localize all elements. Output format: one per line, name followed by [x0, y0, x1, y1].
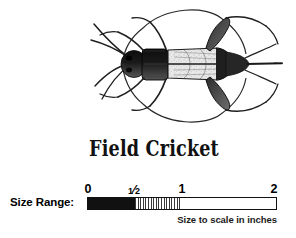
- size-range-section: Size Range: 0 1⁄2 1 2 Size to scale in i…: [0, 183, 296, 217]
- field-cricket-illustration: [88, 4, 284, 130]
- scale-tick-half: 1⁄2: [128, 183, 140, 198]
- field-guide-card: Field Cricket Size Range: 0 1⁄2 1 2 Size…: [0, 0, 296, 238]
- scale-caption: Size to scale in inches: [0, 214, 277, 225]
- forewings: [168, 48, 232, 80]
- scale-tick-labels: 0 1⁄2 1 2: [0, 183, 296, 197]
- fraction-denominator: 2: [135, 186, 140, 196]
- scale-tick-1: 1: [179, 182, 186, 196]
- cricket-body-group: [91, 10, 282, 122]
- size-range-label: Size Range:: [10, 196, 74, 208]
- abdomen: [226, 52, 249, 76]
- ovipositor: [247, 63, 282, 64]
- size-range-scale-bar: [87, 197, 277, 210]
- scale-tick-0: 0: [85, 182, 92, 196]
- cricket-drawing-svg: [88, 4, 284, 130]
- scale-segment-hatched: [135, 198, 182, 209]
- pronotum: [142, 49, 168, 80]
- species-title: Field Cricket: [36, 135, 273, 161]
- scale-tick-2: 2: [271, 182, 278, 196]
- scale-segment-empty: [182, 198, 276, 209]
- scale-segment-solid: [88, 198, 135, 209]
